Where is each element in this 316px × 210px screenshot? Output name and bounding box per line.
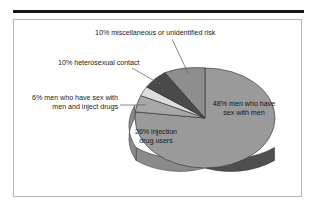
slice-label-idu-line2: drug users (122, 136, 190, 145)
pie-chart-figure: 10% miscellaneous or unidentified risk 1… (0, 0, 316, 210)
slice-label-idu: 26% injection drug users (122, 127, 190, 145)
leader-line-misc (172, 39, 188, 73)
slice-label-msm: 48% men who have sex with men (208, 99, 280, 117)
slice-label-msm-idu: 6% men who have sex with men and inject … (10, 93, 118, 111)
slice-label-hetero-text: 10% heterosexual contact (58, 58, 140, 67)
slice-label-msm-idu-line2: men and inject drugs (10, 102, 118, 111)
pie-slices (135, 68, 205, 118)
slice-label-msm-line1: 48% men who have (208, 99, 280, 108)
slice-label-idu-line1: 26% injection (122, 127, 190, 136)
slice-label-msm-line2: sex with men (208, 108, 280, 117)
slice-label-hetero: 10% heterosexual contact (58, 58, 140, 67)
leader-line-hetero (132, 68, 160, 84)
slice-label-misc-text: 10% miscellaneous or unidentified risk (95, 28, 215, 37)
slice-label-msm-idu-line1: 6% men who have sex with (10, 93, 118, 102)
slice-label-misc: 10% miscellaneous or unidentified risk (95, 28, 215, 37)
